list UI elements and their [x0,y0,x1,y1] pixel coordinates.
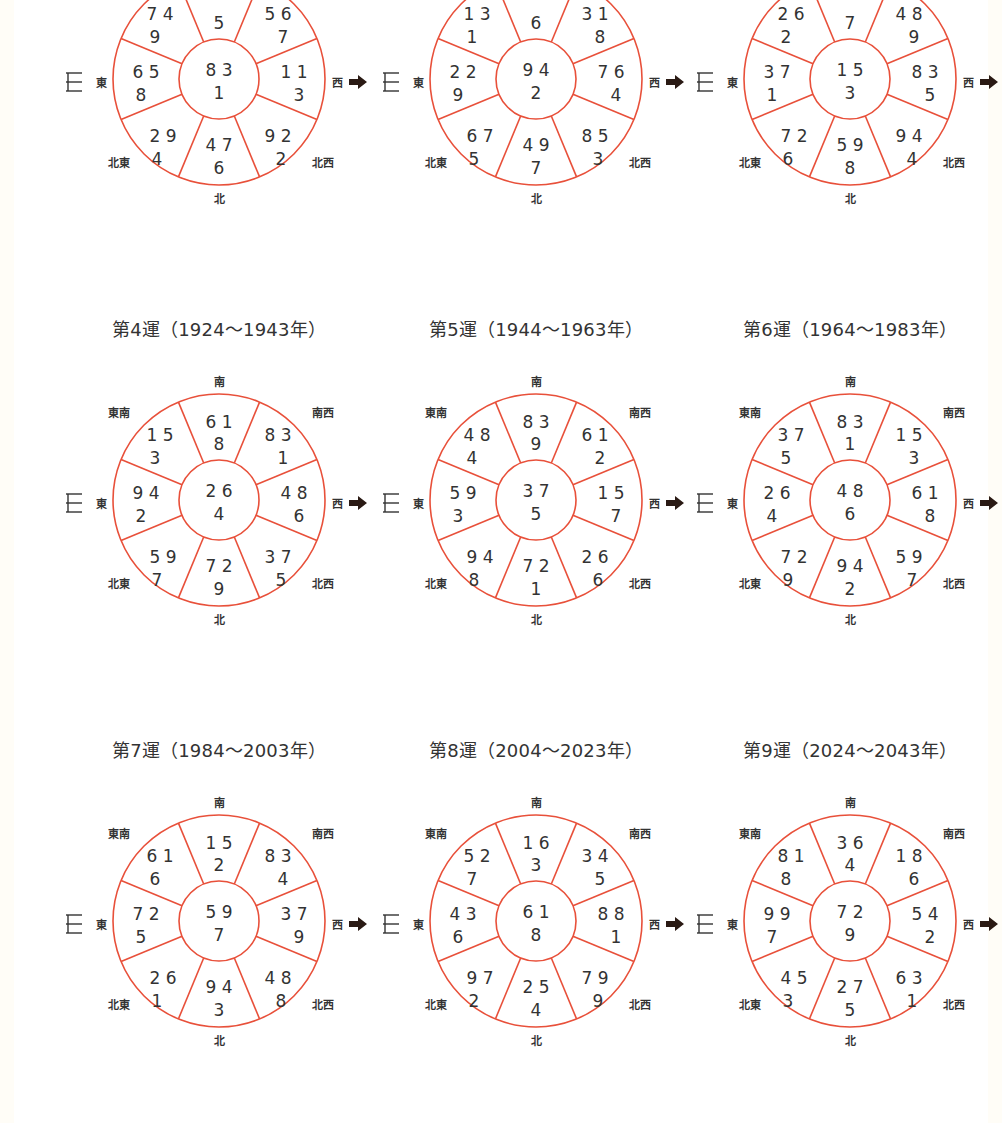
cell-south-bottom: 8 [214,434,225,454]
cell-south-bottom: 6 [531,13,542,33]
cell-west-bottom: 9 [294,927,305,947]
cell-north-top: 2 7 [836,977,863,997]
cell-center-top: 3 7 [522,481,549,501]
label-west: 西 [649,916,660,932]
cell-southeast-top: 7 4 [146,4,173,24]
cell-southwest-top: 1 8 [895,846,922,866]
label-west: 西 [963,74,974,90]
cell-south-bottom: 9 [531,434,542,454]
label-northwest: 北西 [312,996,334,1012]
cell-southwest-top: 1 5 [895,425,922,445]
arrow-right-icon [980,917,998,931]
label-east: 東 [727,74,738,90]
cell-west-top: 4 8 [280,483,307,503]
cell-center-bottom: 9 [845,925,856,945]
label-north: 北 [214,190,225,206]
label-southeast: 東南 [739,825,761,841]
cell-southeast-bottom: 1 [467,27,478,47]
cell-northwest-bottom: 5 [276,570,287,590]
cell-north-top: 5 9 [836,135,863,155]
cell-northeast-bottom: 8 [469,570,480,590]
cell-northwest-top: 4 8 [264,968,291,988]
cell-east-top: 6 5 [132,62,159,82]
cell-southwest-bottom: 7 [278,27,289,47]
cell-west-top: 7 6 [597,62,624,82]
cell-west-top: 8 3 [911,62,938,82]
label-west: 西 [649,495,660,511]
cell-west-top: 8 8 [597,904,624,924]
cell-north-bottom: 9 [214,579,225,599]
cell-south-bottom: 2 [214,855,225,875]
cell-east-bottom: 1 [767,85,778,105]
label-northeast: 北東 [739,575,761,591]
label-east: 東 [727,495,738,511]
cell-northeast-top: 5 9 [149,547,176,567]
label-west: 西 [963,495,974,511]
label-south: 南 [531,794,542,810]
cell-north-bottom: 4 [531,1000,542,1020]
door-icon [65,493,83,513]
door-icon [382,493,400,513]
cell-northeast-bottom: 7 [152,570,163,590]
chart-title: 第7運（1984～2003年） [112,736,326,762]
label-south: 南 [214,373,225,389]
label-west: 西 [332,916,343,932]
cell-southeast-bottom: 7 [467,869,478,889]
arrow-right-icon [349,496,367,510]
cell-southeast-bottom: 6 [150,869,161,889]
chart-title: 第4運（1924～1943年） [112,315,326,341]
cell-northwest-top: 9 2 [264,126,291,146]
cell-northwest-top: 8 5 [581,126,608,146]
label-north: 北 [845,611,856,627]
cell-northwest-top: 6 3 [895,968,922,988]
cell-northeast-bottom: 1 [152,991,163,1011]
cell-southeast-bottom: 3 [150,448,161,468]
label-northwest: 北西 [312,154,334,170]
cell-northeast-top: 7 2 [780,547,807,567]
cell-east-top: 3 7 [763,62,790,82]
cell-northwest-top: 7 9 [581,968,608,988]
cell-west-bottom: 1 [611,927,622,947]
label-northwest: 北西 [629,996,651,1012]
label-east: 東 [96,916,107,932]
cell-south-top: 6 1 [205,412,232,432]
cell-southwest-bottom: 9 [909,27,920,47]
label-west: 西 [649,74,660,90]
cell-south-top: 1 5 [205,833,232,853]
label-north: 北 [845,1032,856,1048]
label-southeast: 東南 [108,825,130,841]
cell-south-top: 8 3 [522,412,549,432]
chart-title: 第5運（1944～1963年） [429,315,643,341]
cell-southwest-bottom: 6 [909,869,920,889]
cell-north-top: 4 9 [522,135,549,155]
label-southwest: 南西 [943,825,965,841]
label-southeast: 東南 [425,825,447,841]
label-south: 南 [845,794,856,810]
arrow-right-icon [349,917,367,931]
cell-center-bottom: 2 [531,83,542,103]
cell-north-top: 9 4 [205,977,232,997]
cell-center-bottom: 4 [214,504,225,524]
cell-southwest-top: 4 8 [895,4,922,24]
label-northeast: 北東 [425,575,447,591]
cell-east-top: 7 2 [132,904,159,924]
cell-center-bottom: 3 [845,83,856,103]
cell-east-top: 2 6 [763,483,790,503]
label-southeast: 東南 [108,404,130,420]
cell-west-bottom: 7 [611,506,622,526]
arrow-right-icon [980,75,998,89]
cell-east-bottom: 7 [767,927,778,947]
cell-northwest-bottom: 1 [907,991,918,1011]
cell-southwest-bottom: 2 [595,448,606,468]
label-east: 東 [413,495,424,511]
label-southwest: 南西 [629,825,651,841]
cell-northeast-top: 4 5 [780,968,807,988]
cell-south-top: 8 3 [836,412,863,432]
cell-west-bottom: 6 [294,506,305,526]
cell-center-top: 8 3 [205,60,232,80]
cell-northeast-bottom: 2 [469,991,480,1011]
cell-northeast-bottom: 4 [152,149,163,169]
label-northeast: 北東 [739,154,761,170]
cell-west-top: 6 1 [911,483,938,503]
cell-west-top: 5 4 [911,904,938,924]
